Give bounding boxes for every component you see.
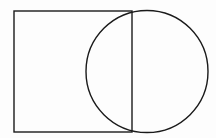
- square-shape: [14, 11, 132, 132]
- circle-shape: [86, 11, 208, 133]
- diagram-canvas: [0, 0, 216, 138]
- geometry-diagram: [0, 0, 216, 138]
